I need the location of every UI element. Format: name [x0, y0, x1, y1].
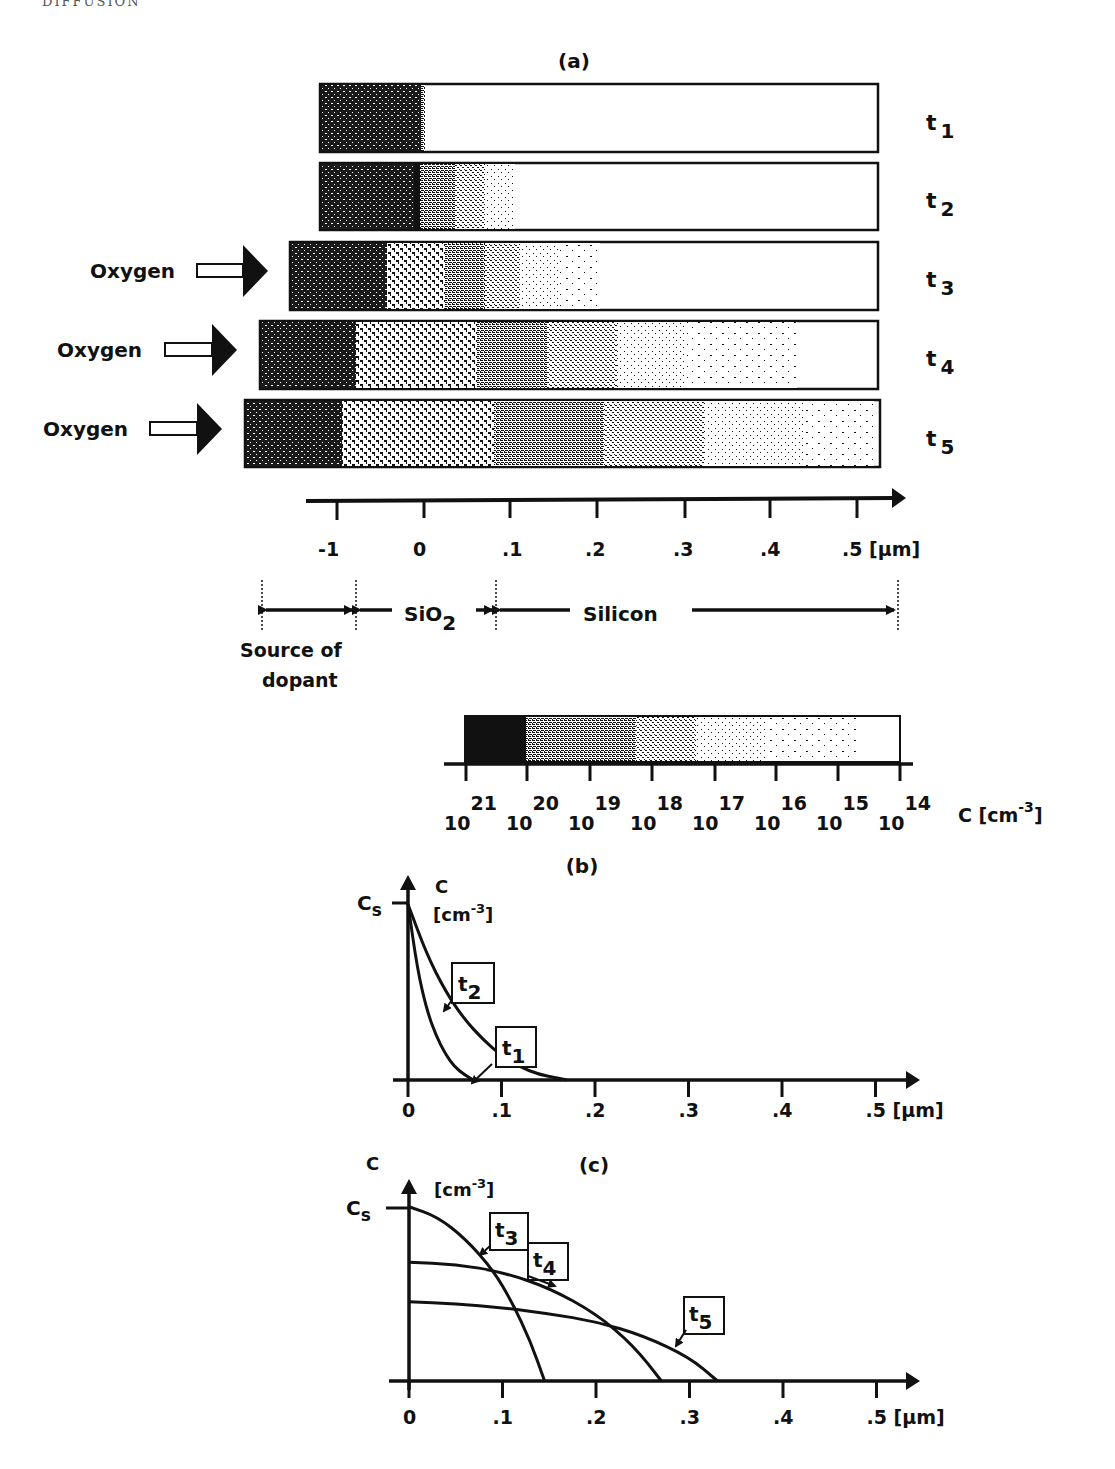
time-label-t5: t5: [926, 426, 954, 459]
oxygen-label: Oxygen: [90, 259, 175, 283]
chart-b: (b) Cs C [cm-3] 0.1.2.3.4.5 [µm] t2 t1: [357, 854, 944, 1121]
arrow-right-icon: [212, 324, 237, 376]
y-axis-unit: [cm-3]: [433, 901, 493, 925]
oxygen-arrow-t5: Oxygen: [43, 403, 222, 455]
svg-text:1019: 1019: [568, 792, 621, 834]
svg-text:1017: 1017: [692, 792, 745, 834]
svg-text:1020: 1020: [506, 792, 559, 834]
diffusion-figure: (a) t1 t2 Oxygen t3: [0, 0, 1115, 1469]
source-region-label: Source of: [240, 639, 342, 661]
oxide-region-label: SiO2: [404, 602, 456, 635]
source-region-label-line2: dopant: [262, 669, 338, 691]
cs-marker-label: Cs: [357, 891, 382, 920]
svg-text:1021: 1021: [444, 792, 497, 834]
time-label-t3: t3: [926, 267, 954, 300]
chart-c-title: (c): [579, 1153, 609, 1177]
y-axis-label: C: [366, 1153, 379, 1174]
cs-marker-label: Cs: [346, 1196, 371, 1225]
arrow-right-icon: [243, 245, 268, 297]
svg-text:1018: 1018: [630, 792, 683, 834]
bar-t2: [320, 163, 878, 230]
oxygen-label: Oxygen: [43, 417, 128, 441]
bar-t1: [320, 84, 878, 152]
time-label-t4: t4: [926, 346, 954, 379]
chart-c: (c) Cs C [cm-3] 0.1.2.3.4.5 [µm] t3 t4 t…: [346, 1153, 945, 1428]
curve-t5: [409, 1302, 718, 1381]
bar-t5: [245, 400, 880, 467]
svg-text:1014: 1014: [878, 792, 931, 834]
concentration-scale-bar: 1021 1020 1019 1018 1017 1016 1015 1014 …: [444, 716, 1043, 834]
bar-t4: [260, 321, 878, 389]
oxygen-arrow-t4: Oxygen: [57, 324, 237, 376]
panel-a-label: (a): [558, 49, 590, 73]
y-axis-label: C: [435, 876, 448, 897]
time-label-t2: t2: [926, 188, 954, 221]
chart-c-x-ticks: 0.1.2.3.4.5 [µm]: [403, 1406, 945, 1428]
dopant-source-region: [321, 85, 421, 151]
time-label-t1: t1: [926, 110, 954, 143]
scale-tick-labels: 1021 1020 1019 1018 1017 1016 1015 1014: [444, 792, 931, 834]
oxygen-arrow-t3: Oxygen: [90, 245, 268, 297]
bar-t3: [290, 242, 878, 310]
chart-b-title: (b): [566, 854, 599, 878]
svg-text:1015: 1015: [816, 792, 869, 834]
oxygen-label: Oxygen: [57, 338, 142, 362]
chart-b-x-ticks: 0.1.2.3.4.5 [µm]: [402, 1099, 944, 1121]
scale-unit-label: C [cm-3]: [958, 799, 1043, 826]
oxide-region: [387, 243, 445, 309]
arrow-right-icon: [197, 403, 222, 455]
silicon-region-label: Silicon: [583, 602, 658, 626]
position-axis: -1 0 .1 .2 .3 .4 .5 [µm]: [306, 488, 920, 560]
y-axis-unit: [cm-3]: [434, 1176, 494, 1200]
svg-text:1016: 1016: [754, 792, 807, 834]
axis-tick-labels: -1 0 .1 .2 .3 .4 .5 [µm]: [318, 538, 920, 560]
region-dimensions: SiO2 Silicon Source of dopant: [240, 580, 898, 691]
